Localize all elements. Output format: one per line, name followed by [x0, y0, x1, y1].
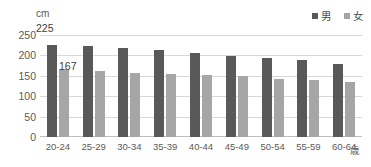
- x-tick-50-54: 50-54: [255, 142, 291, 152]
- y-axis-unit-label: cm: [36, 9, 49, 19]
- bar-group-60-64: [326, 35, 362, 137]
- legend-swatch-female-icon: [344, 13, 350, 19]
- legend-swatch-male-icon: [312, 13, 318, 19]
- bar-groups: 225 167: [40, 35, 362, 137]
- legend-label-female: 女: [353, 11, 363, 22]
- bar-male-50-54[interactable]: [262, 58, 272, 137]
- bar-female-20-24[interactable]: [59, 69, 69, 137]
- bar-female-35-39[interactable]: [166, 74, 176, 137]
- bar-label-male-20-24: 225: [36, 23, 54, 34]
- bar-male-35-39[interactable]: [154, 50, 164, 137]
- bar-male-40-44[interactable]: [190, 53, 200, 137]
- x-tick-55-59: 55-59: [290, 142, 326, 152]
- x-axis-tick-labels: 20-24 25-29 30-34 35-39 40-44 45-49 50-5…: [40, 142, 362, 152]
- bar-female-40-44[interactable]: [202, 75, 212, 137]
- bar-male-20-24[interactable]: [47, 45, 57, 137]
- bar-group-40-44: [183, 35, 219, 137]
- x-tick-45-49: 45-49: [219, 142, 255, 152]
- chart-legend: 男 女: [312, 11, 363, 22]
- y-tick-100: 100: [10, 91, 36, 102]
- x-tick-30-34: 30-34: [112, 142, 148, 152]
- x-tick-35-39: 35-39: [147, 142, 183, 152]
- bar-female-25-29[interactable]: [95, 71, 105, 137]
- bar-group-45-49: [219, 35, 255, 137]
- y-tick-0: 0: [10, 132, 36, 143]
- bar-male-55-59[interactable]: [297, 60, 307, 137]
- bar-male-30-34[interactable]: [118, 48, 128, 137]
- bar-chart: 男 女 cm 250 200 150 100 50 0 225 167: [0, 0, 371, 167]
- bar-label-female-20-24: 167: [59, 61, 77, 72]
- plot-area: 225 167: [40, 35, 362, 137]
- bar-group-20-24: 225 167: [40, 35, 76, 137]
- x-axis-unit-label: 歳: [350, 146, 360, 156]
- legend-entry-female[interactable]: 女: [344, 11, 363, 22]
- y-tick-150: 150: [10, 71, 36, 82]
- y-axis-tick-labels: 250 200 150 100 50 0: [8, 35, 36, 137]
- bar-female-45-49[interactable]: [238, 76, 248, 137]
- bar-group-25-29: [76, 35, 112, 137]
- legend-label-male: 男: [321, 11, 331, 22]
- x-tick-25-29: 25-29: [76, 142, 112, 152]
- y-tick-250: 250: [10, 30, 36, 41]
- bar-group-55-59: [290, 35, 326, 137]
- y-tick-200: 200: [10, 50, 36, 61]
- bar-female-55-59[interactable]: [309, 80, 319, 137]
- bar-female-30-34[interactable]: [130, 73, 140, 137]
- bar-female-50-54[interactable]: [274, 79, 284, 137]
- legend-entry-male[interactable]: 男: [312, 11, 331, 22]
- bar-male-60-64[interactable]: [333, 64, 343, 137]
- y-tick-50: 50: [10, 111, 36, 122]
- bar-group-50-54: [255, 35, 291, 137]
- x-tick-20-24: 20-24: [40, 142, 76, 152]
- bar-male-25-29[interactable]: [83, 46, 93, 137]
- bar-group-30-34: [112, 35, 148, 137]
- x-tick-40-44: 40-44: [183, 142, 219, 152]
- bar-group-35-39: [147, 35, 183, 137]
- bar-female-60-64[interactable]: [345, 82, 355, 137]
- bar-male-45-49[interactable]: [226, 56, 236, 137]
